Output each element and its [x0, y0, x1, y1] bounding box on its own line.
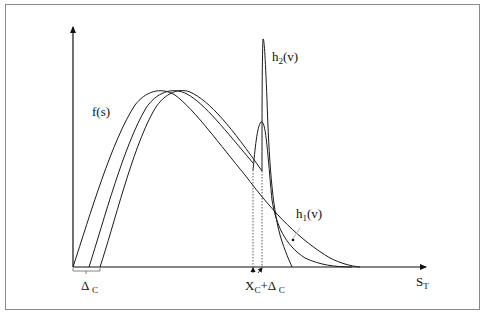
h1-label: h1(v) — [296, 207, 322, 223]
diagram-svg — [0, 0, 488, 318]
fs-curve-2 — [89, 91, 253, 267]
delta-c-label: Δ C — [81, 279, 98, 295]
x-axis-label: ST — [416, 275, 429, 291]
h1-curve — [253, 122, 352, 267]
diagram-canvas: f(s) h2(v) h1(v) Δ C XC+Δ C ST — [0, 0, 488, 318]
fs-label: f(s) — [92, 105, 110, 118]
fs-curve-3 — [100, 91, 262, 267]
h2-label: h2(v) — [272, 50, 298, 66]
xc-delta-arrow — [258, 268, 262, 273]
xc-plus-delta-label: XC+Δ C — [245, 279, 285, 295]
delta-c-brace — [73, 268, 100, 274]
h1-leader-dot — [292, 239, 295, 242]
h2-curve — [262, 39, 292, 267]
